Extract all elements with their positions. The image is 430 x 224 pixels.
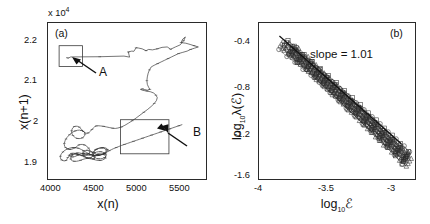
panel-a-arrow-a (72, 57, 98, 75)
panel-b-x-axis-label-main: log (321, 197, 338, 211)
panel-b-ytick--1.6: -1.6 (234, 170, 250, 180)
panel-b-xtick--4: -4 (254, 183, 262, 193)
panel-a-y-multiplier: x 104 (48, 6, 69, 18)
panel-b-y-axis-label-sub: 10 (239, 116, 246, 124)
panel-b-xtick--3.5: -3.5 (318, 183, 334, 193)
panel-a-ytick-2.2: 2.2 (24, 35, 37, 45)
data-point-circle (278, 45, 282, 49)
panel-b: (b) -0.4 -0.8 -1.2 -1.6 -4 -3.5 -3 log10… (215, 0, 430, 224)
panel-a-ytick-2: 2 (33, 116, 38, 126)
panel-a-y-axis-label: x(n+1) (17, 94, 31, 130)
panel-a-annotation-b-label: B (193, 125, 201, 139)
panel-a-ytick-2.1: 2.1 (24, 75, 37, 85)
panel-a-xtick-4500: 4500 (83, 183, 104, 193)
reference-slope-line (279, 36, 401, 144)
panel-a-xtick-5000: 5000 (126, 183, 147, 193)
panel-b-xtick--3: -3 (387, 183, 395, 193)
panel-b-ytick--0.4: -0.4 (234, 36, 250, 46)
panel-a-xtick-5500: 5500 (169, 183, 190, 193)
panel-a-annotation-a-label: A (99, 65, 107, 79)
panel-b-x-axis-label-symbol: ℰ (345, 197, 353, 211)
panel-a-xtick-4000: 4000 (40, 183, 61, 193)
panel-b-x-axis-label: log10ℰ (321, 196, 353, 213)
panel-b-ytick--0.8: -0.8 (234, 82, 250, 92)
panel-a-data-canvas (47, 22, 207, 180)
panel-a-x-axis-label: x(n) (97, 197, 119, 211)
panel-a-ytick-1.9: 1.9 (24, 157, 37, 167)
panel-b-y-axis-label-symbol: λ(ℰ) (230, 93, 244, 116)
panel-a-y-multiplier-exponent: 4 (66, 6, 70, 13)
panel-b-y-axis-label-main: log (230, 123, 244, 140)
panel-b-y-axis-label: log10λ(ℰ) (229, 93, 246, 140)
panel-a: x 104 (a) 2.2 2.1 2 1.9 4000 4500 5000 5… (0, 0, 215, 224)
figure-container: x 104 (a) 2.2 2.1 2 1.9 4000 4500 5000 5… (0, 0, 430, 224)
panel-b-data-canvas (258, 22, 416, 180)
panel-a-arrow-b (166, 131, 192, 149)
